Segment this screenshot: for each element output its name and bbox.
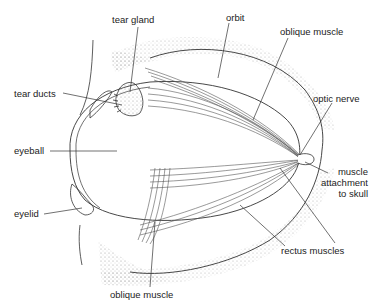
label-tear-ducts: tear ducts [14,88,56,99]
label-eyeball: eyeball [14,145,44,156]
label-tear-gland: tear gland [112,14,154,25]
eye-anatomy-diagram [0,0,377,308]
label-orbit: orbit [226,12,244,23]
label-muscle-attachment: muscle attachment to skull [300,166,368,199]
label-optic-nerve: optic nerve [313,93,359,104]
label-muscle-attachment-line1: muscle [300,166,368,177]
label-oblique-muscle-bottom: oblique muscle [110,289,173,300]
label-muscle-attachment-line3: to skull [300,188,368,199]
label-eyelid: eyelid [14,208,39,219]
label-muscle-attachment-line2: attachment [300,177,368,188]
label-oblique-muscle-top: oblique muscle [280,26,343,37]
label-rectus-muscles: rectus muscles [281,245,344,256]
